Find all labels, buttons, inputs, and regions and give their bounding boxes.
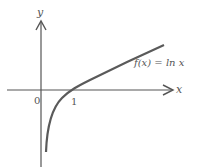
x-tick-label-1: 1 [71,96,77,107]
y-axis-label: y [36,6,44,19]
origin-label: 0 [34,95,40,106]
x-axis-label: x [176,83,183,96]
ln-graph: y x 0 1 f(x) = ln x [0,0,197,167]
function-label: f(x) = ln x [133,57,185,68]
